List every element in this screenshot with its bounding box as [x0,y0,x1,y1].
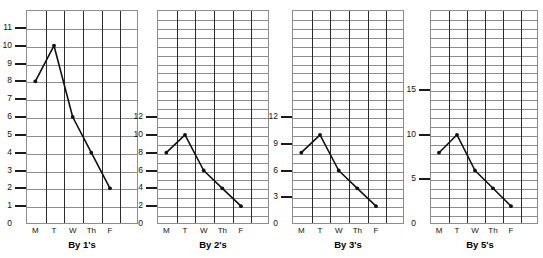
y-axis-tick [419,134,430,136]
grid-line-vertical [449,11,450,223]
chart-panel-4: 051015MTWThFBy 5's [0,0,543,258]
y-axis-tick [419,178,430,180]
y-axis-label: 10 [392,130,416,139]
grid-line-vertical [485,11,486,223]
y-axis-label: 0 [392,219,416,228]
y-axis-label: 5 [392,174,416,183]
plot-grid-area [430,10,538,224]
x-axis-label-f: F [497,226,525,235]
grid-line-vertical [503,11,504,223]
grid-line-vertical [521,11,522,223]
y-axis-label: 15 [392,85,416,94]
chart-caption: By 5's [424,239,536,250]
grid-line-vertical [467,11,468,223]
line-graph-figure: 01234567891011MTWThFBy 1's024681012MTWTh… [0,0,543,258]
y-axis-tick [419,89,430,91]
